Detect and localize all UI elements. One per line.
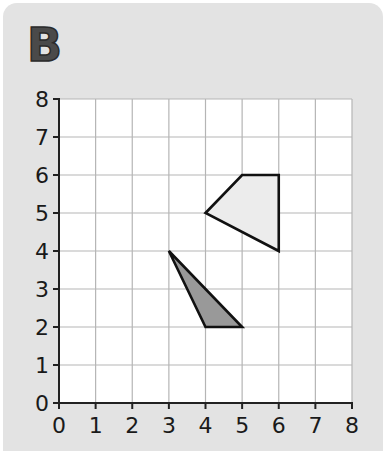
y-tick-label: 2 [35, 315, 49, 340]
y-tick-label: 8 [35, 87, 49, 112]
x-tick-label: 0 [52, 413, 66, 438]
y-tick-label: 5 [35, 201, 49, 226]
y-tick-label: 1 [35, 353, 49, 378]
x-tick-label: 8 [345, 413, 359, 438]
coordinate-grid: 012345678012345678 [0, 0, 385, 451]
y-tick-label: 4 [35, 239, 49, 264]
x-tick-label: 7 [308, 413, 322, 438]
x-tick-label: 6 [272, 413, 286, 438]
y-tick-label: 0 [35, 391, 49, 416]
y-tick-label: 7 [35, 125, 49, 150]
x-tick-label: 4 [199, 413, 213, 438]
x-tick-label: 1 [89, 413, 103, 438]
x-tick-label: 3 [162, 413, 176, 438]
y-tick-label: 6 [35, 163, 49, 188]
x-tick-label: 5 [235, 413, 249, 438]
y-tick-label: 3 [35, 277, 49, 302]
x-tick-label: 2 [125, 413, 139, 438]
